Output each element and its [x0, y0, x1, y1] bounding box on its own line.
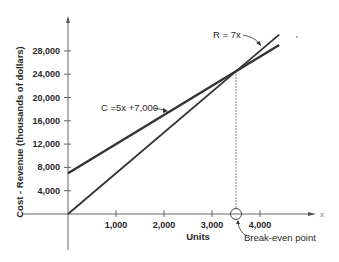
x-tick-label: 1,000	[105, 220, 128, 230]
break-even-label: Break-even point	[244, 232, 316, 243]
revenue-label-arrow	[243, 35, 259, 43]
y-tick-label: 4,000	[37, 186, 60, 196]
y-tick-label: 28,000	[32, 46, 60, 56]
series-line-cost	[68, 45, 279, 173]
x-tick-label: 4,000	[249, 220, 272, 230]
y-tick-label: 24,000	[32, 69, 60, 79]
x-tick-label: 3,000	[201, 220, 224, 230]
y-tick-label: 12,000	[32, 139, 60, 149]
x-axis-title: Units	[186, 231, 210, 242]
y-axis-title: Cost - Revenue (thousands of dollars)	[14, 46, 25, 218]
y-axis-arrow	[66, 16, 70, 23]
y-tick-label: 8,000	[37, 162, 60, 172]
cost-line-label: C =5x +7,000	[101, 102, 158, 113]
revenue-label-arrowhead	[256, 41, 261, 46]
annotations	[154, 35, 298, 236]
x-axis-letter: x	[319, 209, 324, 219]
y-tick-label: 16,000	[32, 116, 60, 126]
revenue-line-label: R = 7x	[213, 29, 241, 40]
y-tick-label: 20,000	[32, 93, 60, 103]
x-axis-arrow	[308, 212, 316, 216]
series-lines	[68, 35, 279, 214]
break-even-arrowhead	[236, 220, 240, 224]
series-line-revenue	[68, 35, 279, 214]
break-even-chart: 4,0008,00012,00016,00020,00024,00028,000…	[0, 0, 339, 262]
stray-dot	[296, 36, 298, 38]
x-tick-label: 2,000	[153, 220, 176, 230]
